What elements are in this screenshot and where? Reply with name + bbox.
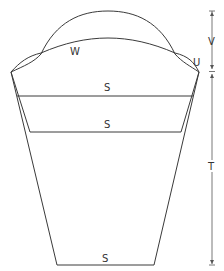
dimension-t-bottom-arrow-icon — [210, 260, 214, 264]
label-t: T — [207, 161, 215, 172]
dimension-v-top-arrow-icon — [210, 12, 214, 16]
sleeve-pattern-diagram: W U S S S V T — [0, 0, 224, 271]
label-u: U — [193, 57, 200, 68]
label-w: W — [70, 46, 80, 57]
label-s-bottom: S — [102, 253, 108, 264]
outer-left-side — [11, 72, 57, 265]
shallow-cap-curve-w — [11, 38, 199, 72]
label-v: V — [208, 36, 215, 47]
inner-right-side — [181, 72, 199, 132]
dimension-v-bottom-arrow-icon — [210, 65, 214, 69]
tall-cap-curve — [11, 11, 199, 72]
inner-left-side — [11, 72, 30, 132]
label-s-top: S — [104, 82, 110, 93]
label-s-middle: S — [104, 119, 110, 130]
outer-right-side — [154, 72, 199, 265]
